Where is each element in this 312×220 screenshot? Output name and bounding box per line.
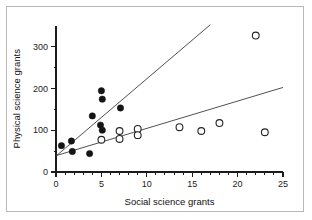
y-tick-label: 0: [43, 167, 48, 177]
scatter-plot: 0510152025 0100200300 Social science gra…: [0, 0, 312, 220]
x-tick-label: 10: [142, 179, 152, 189]
data-point-filled: [58, 142, 64, 148]
y-tick-label: 300: [33, 42, 48, 52]
data-point-filled: [89, 113, 95, 119]
x-tick-label: 0: [53, 179, 58, 189]
data-point-open: [176, 124, 183, 131]
data-points: [58, 32, 268, 157]
steep-regression-line: [56, 25, 210, 156]
x-tick-marks: [56, 172, 283, 177]
data-point-open: [216, 120, 223, 127]
data-point-filled: [69, 148, 75, 154]
data-point-open: [252, 32, 259, 39]
y-axis-title: Physical science grants: [11, 49, 22, 149]
data-point-open: [116, 128, 123, 135]
data-point-filled: [98, 88, 104, 94]
data-point-filled: [86, 150, 92, 156]
x-axis-title: Social science grants: [125, 196, 215, 207]
data-point-filled: [97, 122, 103, 128]
data-point-filled: [99, 96, 105, 102]
data-point-open: [198, 128, 205, 135]
data-point-open: [134, 132, 141, 139]
trend-lines: [56, 25, 283, 156]
axes-group: [56, 26, 283, 173]
y-tick-labels: 0100200300: [33, 42, 48, 178]
x-tick-labels: 0510152025: [53, 179, 288, 189]
data-point-open: [116, 136, 123, 143]
y-tick-marks: [51, 46, 56, 172]
shallow-regression-line: [56, 87, 283, 155]
chart-figure: 0510152025 0100200300 Social science gra…: [0, 0, 312, 220]
x-tick-label: 25: [278, 179, 288, 189]
x-tick-label: 20: [233, 179, 243, 189]
data-point-filled: [117, 105, 123, 111]
data-point-open: [261, 129, 268, 136]
y-tick-label: 200: [33, 84, 48, 94]
data-point-filled: [68, 138, 74, 144]
x-tick-label: 15: [187, 179, 197, 189]
y-tick-label: 100: [33, 125, 48, 135]
data-point-open: [98, 136, 105, 143]
x-tick-label: 5: [99, 179, 104, 189]
